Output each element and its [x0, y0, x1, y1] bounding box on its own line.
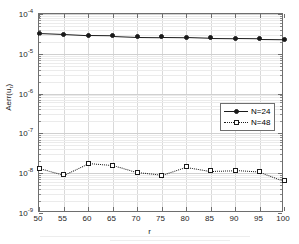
y-tick-label: 10-9	[3, 207, 33, 218]
series-line-segment	[259, 39, 284, 40]
y-tick-exponent: -8	[28, 167, 33, 173]
series-line-segment	[137, 37, 162, 38]
series-data-point	[110, 33, 115, 38]
x-axis-tick	[284, 14, 285, 18]
x-axis-tick	[64, 207, 65, 211]
y-tick-mantissa: 10	[19, 209, 28, 218]
x-axis-tick	[284, 207, 285, 211]
y-axis-minor-tick	[280, 30, 282, 31]
y-axis-minor-tick	[280, 161, 282, 162]
x-axis-tick	[211, 207, 212, 211]
y-tick-exponent: -6	[28, 88, 33, 94]
y-axis-minor-tick	[280, 135, 282, 136]
y-axis-minor-tick	[280, 42, 282, 43]
y-axis-minor-tick	[280, 179, 282, 180]
y-axis-minor-tick	[280, 100, 282, 101]
y-axis-minor-tick	[39, 63, 41, 64]
y-axis-minor-tick	[39, 106, 41, 107]
y-axis-minor-tick	[39, 23, 41, 24]
legend-entry[interactable]: N=48	[224, 117, 270, 128]
y-axis-minor-tick	[280, 177, 282, 178]
y-axis-minor-tick	[39, 70, 41, 71]
y-axis-minor-tick	[39, 26, 41, 27]
series-line-segment	[39, 168, 64, 176]
y-tick-label: 10-8	[3, 167, 33, 178]
series-data-point	[184, 35, 189, 40]
x-axis-tick	[88, 207, 89, 211]
y-axis-minor-tick	[280, 26, 282, 27]
y-axis-minor-tick	[39, 30, 41, 31]
series-line-segment	[88, 163, 113, 166]
series-data-point	[159, 173, 164, 178]
y-axis-minor-tick	[280, 189, 282, 190]
x-axis-tick	[260, 14, 261, 18]
y-axis-minor-tick	[39, 109, 41, 110]
y-axis-minor-tick	[39, 154, 41, 155]
x-axis-tick	[88, 14, 89, 18]
series-data-point	[86, 33, 91, 38]
y-axis-minor-tick	[39, 201, 41, 202]
y-axis-minor-tick	[39, 175, 41, 176]
series-data-point	[86, 161, 91, 166]
series-data-point	[233, 168, 238, 173]
y-axis-minor-tick	[39, 114, 41, 115]
series-data-point	[208, 35, 213, 40]
y-axis-minor-tick	[39, 60, 41, 61]
y-axis-minor-tick	[280, 145, 282, 146]
series-line-segment	[39, 33, 64, 35]
y-axis-minor-tick	[280, 154, 282, 155]
series-data-point	[110, 163, 115, 168]
y-axis-minor-tick	[39, 140, 41, 141]
y-axis-minor-tick	[39, 97, 41, 98]
y-axis-minor-tick	[39, 161, 41, 162]
y-axis-minor-tick	[280, 70, 282, 71]
series-line-segment	[210, 170, 235, 172]
y-axis-minor-tick	[280, 23, 282, 24]
y-axis-minor-tick	[39, 194, 41, 195]
x-axis-tick	[137, 14, 138, 18]
y-axis-minor-tick	[280, 58, 282, 59]
y-axis-minor-tick	[280, 137, 282, 138]
legend-entry[interactable]: N=24	[224, 106, 270, 117]
y-tick-mantissa: 10	[19, 89, 28, 98]
y-axis-minor-tick	[39, 137, 41, 138]
y-axis-minor-tick	[39, 142, 41, 143]
y-tick-label: 10-7	[3, 127, 33, 138]
series-line-segment	[161, 37, 186, 38]
scan-artifact	[40, 236, 250, 237]
legend-box[interactable]: N=24N=48	[220, 103, 275, 131]
series-data-point	[184, 164, 189, 169]
y-axis-minor-tick	[280, 142, 282, 143]
series-line-segment	[88, 35, 113, 36]
y-axis-minor-tick	[280, 82, 282, 83]
series-line-segment	[161, 167, 186, 176]
legend-marker	[234, 109, 239, 114]
y-tick-mantissa: 10	[19, 10, 28, 19]
y-axis-tick	[278, 213, 282, 214]
y-axis-minor-tick	[280, 20, 282, 21]
y-tick-label: 10-6	[3, 88, 33, 99]
x-axis-tick	[39, 207, 40, 211]
y-axis-title-tail: )	[4, 84, 13, 87]
y-axis-minor-tick	[280, 114, 282, 115]
y-axis-minor-tick	[39, 177, 41, 178]
y-tick-exponent: -7	[28, 127, 33, 133]
x-axis-title: r	[0, 227, 299, 236]
series-data-point	[208, 168, 213, 173]
y-axis-minor-tick	[39, 185, 41, 186]
y-tick-exponent: -9	[28, 207, 33, 213]
y-axis-minor-tick	[280, 56, 282, 57]
series-line-segment	[112, 165, 137, 173]
series-data-point	[233, 36, 238, 41]
figure-canvas: Aerr(ur) r 5055606570758085909510010-410…	[0, 0, 299, 244]
x-axis-tick	[137, 207, 138, 211]
legend-label: N=48	[251, 118, 270, 127]
x-axis-tick	[64, 14, 65, 18]
y-axis-minor-tick	[280, 175, 282, 176]
x-axis-tick	[113, 207, 114, 211]
y-axis-minor-tick	[39, 189, 41, 190]
series-line-segment	[63, 163, 88, 175]
y-axis-minor-tick	[39, 66, 41, 67]
series-line-segment	[186, 167, 211, 172]
y-axis-minor-tick	[280, 95, 282, 96]
